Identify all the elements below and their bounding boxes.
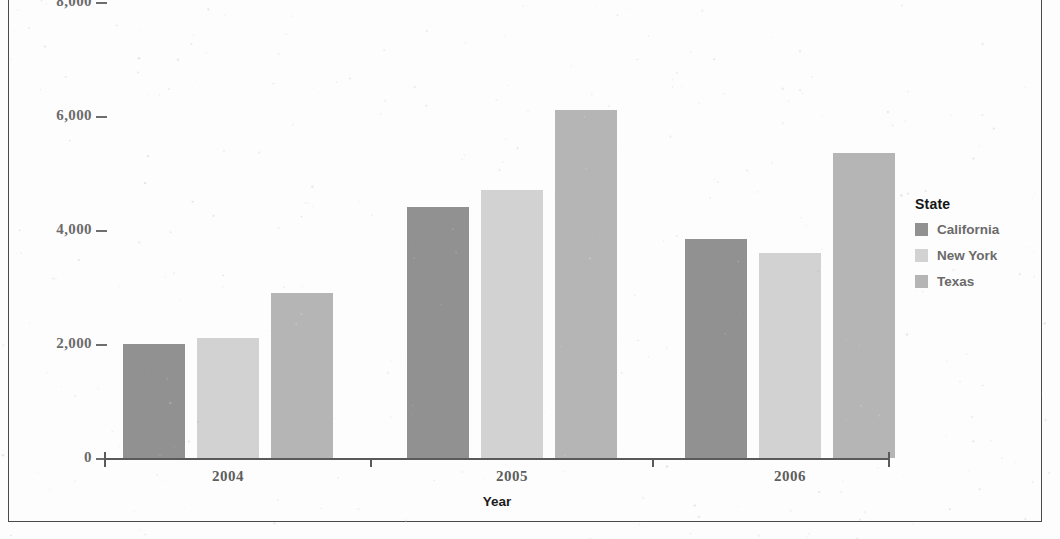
x-tick-mark: [104, 458, 106, 467]
legend-item: California: [915, 221, 1045, 238]
bar: [123, 344, 185, 458]
legend-item-label: California: [937, 222, 999, 237]
x-tick-mark: [888, 458, 890, 467]
bar: [271, 293, 333, 458]
bar-series-layer: [0, 0, 1060, 458]
legend-item-label: New York: [937, 248, 997, 263]
bar: [759, 253, 821, 458]
x-tick-label: 2005: [432, 468, 592, 485]
legend-item-label: Texas: [937, 274, 974, 289]
bar: [407, 207, 469, 458]
legend-item: Texas: [915, 273, 1045, 290]
scanned-page: 02,0004,0006,0008,000 200420052006 Quant…: [0, 0, 1060, 539]
bar: [197, 338, 259, 458]
legend-swatch-icon: [915, 223, 928, 236]
x-tick-label: 2004: [148, 468, 308, 485]
bar: [685, 239, 747, 458]
x-tick-mark: [652, 458, 654, 467]
x-tick-mark: [370, 458, 372, 467]
legend-swatch-icon: [915, 249, 928, 262]
legend-item: New York: [915, 247, 1045, 264]
x-axis-title: Year: [104, 494, 890, 509]
x-axis-line: [104, 458, 890, 460]
bar: [481, 190, 543, 458]
bar: [555, 110, 617, 458]
legend-swatch-icon: [915, 275, 928, 288]
x-tick-label: 2006: [710, 468, 870, 485]
bar: [833, 153, 895, 458]
legend-items: CaliforniaNew YorkTexas: [915, 221, 1045, 290]
legend-title: State: [915, 196, 1045, 212]
legend: State CaliforniaNew YorkTexas: [915, 196, 1045, 299]
grouped-bar-chart: 02,0004,0006,0008,000 200420052006 Quant…: [0, 0, 1060, 539]
